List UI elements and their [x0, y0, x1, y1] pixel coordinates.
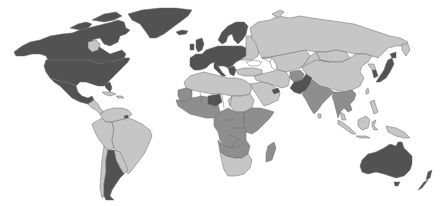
region-malay-peninsula[interactable] — [340, 112, 346, 120]
region-sumatra[interactable] — [338, 120, 356, 134]
region-caribbean[interactable] — [102, 92, 116, 96]
region-sri-lanka[interactable] — [318, 114, 321, 118]
region-peru-bolivia[interactable] — [92, 118, 114, 150]
region-tasmania[interactable] — [394, 182, 400, 186]
region-united-kingdom[interactable] — [196, 38, 204, 52]
region-australia[interactable] — [360, 142, 412, 178]
region-hokkaido[interactable] — [390, 52, 396, 58]
region-borneo[interactable] — [358, 116, 370, 130]
region-niger[interactable] — [208, 94, 222, 106]
region-ireland[interactable] — [190, 44, 194, 50]
region-new-zealand-south[interactable] — [418, 180, 428, 190]
north-america — [14, 8, 192, 114]
region-java[interactable] — [356, 136, 370, 138]
oceania — [360, 142, 432, 190]
region-iceland[interactable] — [176, 30, 188, 35]
region-sulawesi[interactable] — [372, 120, 378, 130]
region-caribbean-2[interactable] — [116, 96, 124, 98]
region-north-korea[interactable] — [368, 64, 376, 70]
region-south-korea[interactable] — [372, 70, 378, 78]
region-kamchatka — [402, 44, 410, 56]
region-papua-new-guinea[interactable] — [386, 126, 410, 138]
world-map — [0, 0, 440, 206]
region-black-sea — [246, 60, 262, 66]
region-north-africa[interactable] — [184, 72, 252, 96]
region-madagascar[interactable] — [266, 142, 276, 162]
region-canada[interactable] — [14, 20, 130, 64]
asia — [246, 10, 410, 138]
region-central-america[interactable] — [88, 100, 104, 114]
region-new-zealand-north[interactable] — [426, 170, 432, 180]
region-taiwan[interactable] — [366, 88, 369, 94]
region-east-africa[interactable] — [244, 108, 274, 134]
region-balkans[interactable] — [228, 66, 236, 76]
south-america — [92, 108, 152, 200]
region-florida — [104, 82, 112, 92]
region-japan[interactable] — [376, 58, 394, 82]
region-philippines[interactable] — [370, 100, 378, 114]
